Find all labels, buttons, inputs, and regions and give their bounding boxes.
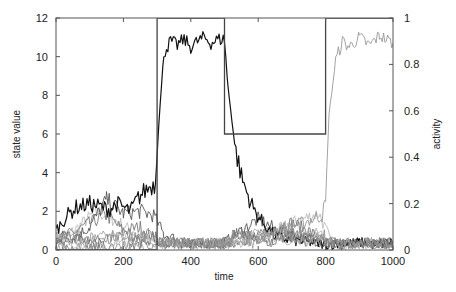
y2-tick-label: 0.4 (404, 151, 419, 163)
y-axis-label: state value (11, 109, 22, 158)
y2-tick-label: 0 (404, 244, 410, 256)
y-tick-label: 0 (42, 244, 48, 256)
y2-axis-label: activity (431, 119, 442, 150)
x-tick-label: 800 (316, 255, 334, 267)
y-tick-label: 4 (42, 167, 48, 179)
x-axis-label: time (215, 271, 234, 282)
x-tick-label: 400 (182, 255, 200, 267)
y-tick-label: 6 (42, 128, 48, 140)
y2-tick-label: 0.2 (404, 198, 419, 210)
x-tick-label: 0 (53, 255, 59, 267)
x-tick-label: 200 (114, 255, 132, 267)
y2-tick-label: 0.8 (404, 58, 419, 70)
data-traces (56, 18, 393, 250)
x-tick-label: 600 (249, 255, 267, 267)
chart-canvas: 02004006008001000 024681012 00.20.40.60.… (0, 0, 456, 292)
y-tick-label: 12 (36, 12, 48, 24)
y-tick-label: 8 (42, 89, 48, 101)
x-tick-label: 1000 (381, 255, 405, 267)
y2-tick-label: 0.6 (404, 105, 419, 117)
y-tick-label: 2 (42, 205, 48, 217)
y-tick-label: 10 (36, 51, 48, 63)
y2-tick-label: 1 (404, 12, 410, 24)
x-axis: 02004006008001000 (53, 18, 405, 267)
y-axis-right: 00.20.40.60.81 (389, 12, 419, 256)
